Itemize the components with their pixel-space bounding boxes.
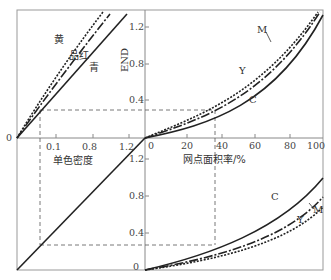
origin-left-label: 0 — [6, 132, 12, 143]
label-yellow: 黄 — [54, 33, 64, 45]
end-axis-label: END — [119, 48, 130, 72]
x-right-axis-label: 网点面积率/% — [183, 153, 246, 165]
x-left-axis-label: 单色密度 — [53, 154, 93, 166]
end-y-ticks — [145, 27, 149, 100]
origin-bottom-label: 0 — [133, 261, 139, 272]
bottom-y-tick-1.2: 1.2 — [129, 153, 144, 164]
dashed-guide-lines — [40, 110, 215, 245]
label-m-top: M — [257, 24, 267, 35]
label-y-bottom: Y — [296, 214, 304, 225]
left-x-ticks — [56, 134, 129, 138]
x-right-tick-80: 80 — [284, 140, 296, 151]
x-right-tick-60: 60 — [249, 140, 261, 151]
end-tick-0.8: 0.8 — [129, 58, 144, 69]
x-right-tick-100: 100 — [307, 140, 325, 151]
bottom-y-ticks — [145, 159, 149, 233]
m-curve-top — [145, 12, 320, 138]
right-x-ticks — [187, 134, 290, 138]
bottom-y-tick-0.8: 0.8 — [129, 190, 144, 201]
label-magenta: 品红 — [69, 49, 89, 61]
x-right-tick-20: 20 — [181, 140, 193, 151]
m-curve-bottom — [145, 197, 323, 270]
top-left-curves — [17, 12, 127, 138]
top-right-curves — [145, 12, 323, 138]
x-right-tick-40: 40 — [216, 140, 228, 151]
y-curve-top — [145, 12, 318, 138]
x-left-tick-3: 1.2 — [119, 141, 134, 152]
label-m-bottom: M — [313, 204, 323, 215]
end-tick-1.2: 1.2 — [129, 21, 144, 32]
label-cyan: 青 — [89, 61, 99, 73]
four-quadrant-tone-chart: 0 0 0 黄 品红 青 0.1 0.8 1.2 单色密度 20 40 60 8… — [0, 0, 331, 280]
x-left-tick-2: 0.8 — [82, 141, 97, 152]
end-tick-0.4: 0.4 — [129, 94, 144, 105]
x-left-tick-1: 0.1 — [46, 141, 61, 152]
label-c-bottom: C — [271, 191, 279, 202]
cyan-curve — [17, 14, 127, 138]
bottom-y-tick-0.4: 0.4 — [129, 227, 144, 238]
magenta-curve — [17, 14, 110, 138]
label-y-top: Y — [238, 65, 246, 76]
origin-center-label: 0 — [148, 140, 154, 151]
label-c-top: C — [249, 94, 257, 105]
c-curve-top — [145, 15, 323, 138]
